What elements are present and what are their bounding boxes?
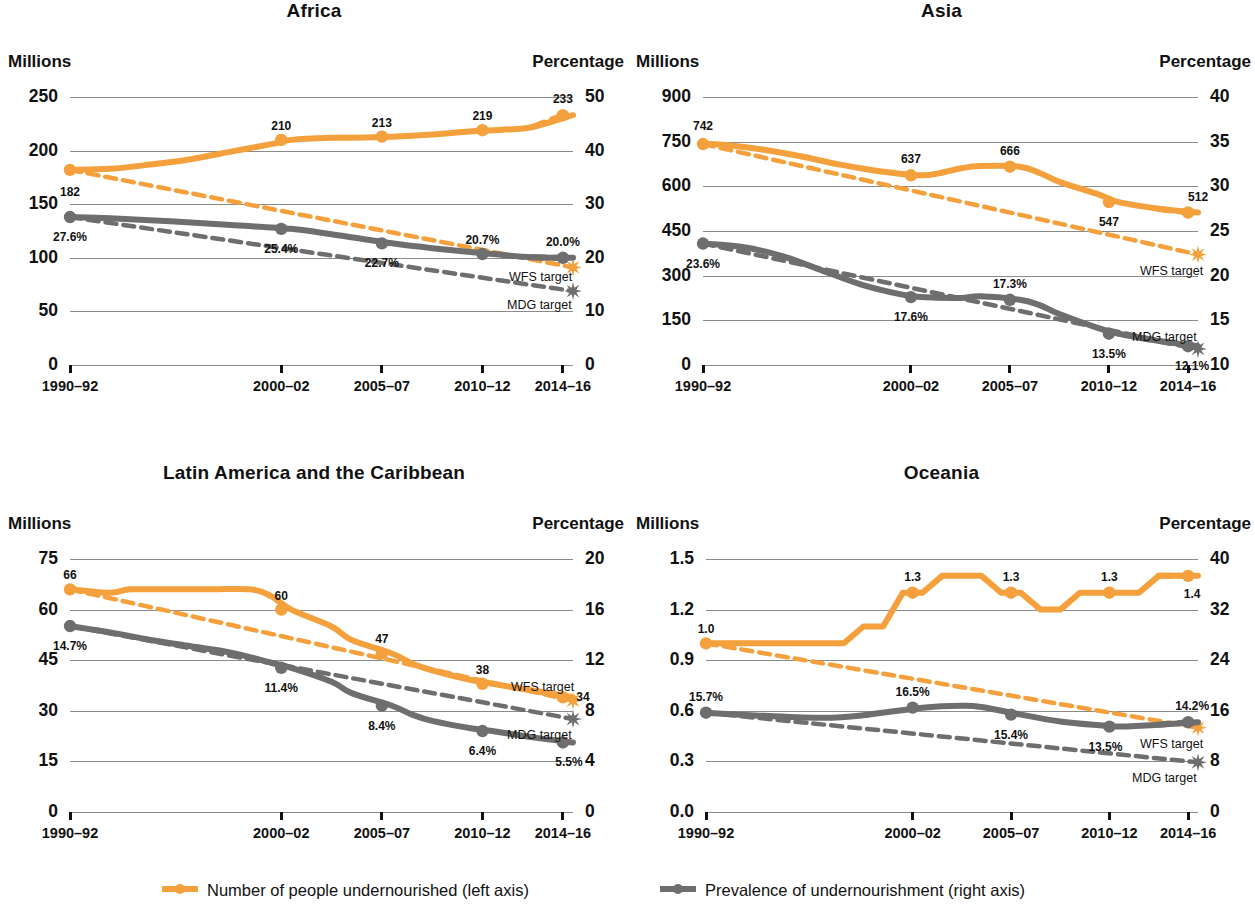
x-axis-tick-label: 1990–92 [42,378,98,394]
data-point-marker [376,130,388,142]
x-axis-tick-mark [1107,365,1110,373]
data-point-marker [275,603,287,615]
y-axis-tick-left: 0 [681,356,691,374]
mdg-target-label: MDG target [1132,772,1197,785]
y-axis-tick-right: 8 [1210,752,1220,770]
panel-title-africa: Africa [0,0,628,22]
data-point-label: 34 [576,691,589,703]
y-axis-tick-left: 30 [39,702,58,720]
data-point-label: 14.2% [1175,700,1209,712]
data-point-label: 13.5% [1092,348,1126,360]
wfs-target-label: WFS target [509,271,572,284]
data-point-marker [1005,708,1017,720]
left-axis-caption-africa: Millions [8,52,71,72]
x-axis-tick-mark [481,365,484,373]
data-point-label: 25.4% [264,243,298,255]
y-axis-tick-right: 8 [585,702,595,720]
y-axis-tick-left: 45 [39,651,58,669]
gridline [70,812,573,813]
y-axis-tick-right: 20 [585,249,604,267]
wfs-target-label: WFS target [1140,738,1203,751]
target-line [703,244,1198,349]
data-point-label: 210 [271,120,291,132]
data-point-label: 1.4 [1184,588,1201,600]
y-axis-tick-right: 16 [1210,702,1229,720]
y-axis-tick-left: 600 [662,177,691,195]
data-point-label: 60 [275,590,288,602]
target-line [70,626,573,719]
left-axis-caption-oceania: Millions [636,514,699,534]
x-axis-tick-mark [280,365,283,373]
y-axis-tick-right: 30 [585,195,604,213]
right-axis-caption-africa: Percentage [532,52,624,72]
data-point-marker [906,587,918,599]
data-point-label: 233 [553,93,573,105]
x-axis-tick-mark [561,365,564,373]
data-point-label: 1.3 [1003,571,1020,583]
series-layer [70,97,573,365]
y-axis-tick-right: 16 [585,601,604,619]
x-axis-tick-label: 2014–16 [535,825,591,841]
x-axis-tick-mark [1010,812,1013,820]
x-axis-tick-label: 2010–12 [454,825,510,841]
plot-area-asia: 0150300450600750900101520253035401990–92… [703,97,1198,365]
panel-asia: Asia Millions Percentage 015030045060075… [628,0,1255,420]
y-axis-tick-left: 0.9 [670,651,694,669]
panel-africa: Africa Millions Percentage 0501001502002… [0,0,628,420]
legend-item-prevalence-undernourishment: Prevalence of undernourishment (right ax… [660,881,1025,900]
y-axis-tick-right: 10 [1210,356,1229,374]
data-point-marker [1004,294,1016,306]
x-axis-tick-mark [702,365,705,373]
x-axis-tick-mark [1008,365,1011,373]
data-point-label: 637 [901,153,921,165]
data-point-label: 14.7% [53,640,87,652]
y-axis-tick-right: 24 [1210,651,1229,669]
panel-title-latin-america: Latin America and the Caribbean [0,462,628,484]
x-axis-tick-mark [481,812,484,820]
data-point-label: 213 [372,117,392,129]
x-axis-tick-label: 2014–16 [1160,825,1216,841]
y-axis-tick-right: 40 [585,142,604,160]
data-point-marker [376,237,388,249]
data-point-marker [905,169,917,181]
data-point-marker [1103,587,1115,599]
data-line [703,144,1198,212]
y-axis-tick-left: 50 [39,302,58,320]
data-point-marker [1103,196,1115,208]
panel-title-oceania: Oceania [628,462,1255,484]
series-layer [706,559,1198,812]
data-point-label: 182 [60,186,80,198]
right-axis-caption-latin-america: Percentage [532,514,624,534]
y-axis-tick-left: 200 [29,142,58,160]
y-axis-tick-left: 0.0 [670,803,694,821]
y-axis-tick-left: 15 [39,752,58,770]
series-layer [70,559,573,812]
data-point-marker [476,124,488,136]
y-axis-tick-left: 450 [662,222,691,240]
x-axis-tick-mark [280,812,283,820]
y-axis-tick-right: 4 [585,752,595,770]
y-axis-tick-right: 40 [1210,88,1229,106]
data-point-label: 27.6% [53,231,87,243]
data-point-label: 11.4% [265,682,298,694]
data-point-label: 1.3 [904,571,921,583]
y-axis-tick-right: 20 [1210,267,1229,285]
target-star-icon [1189,753,1207,771]
data-point-label: 547 [1099,216,1119,228]
data-point-marker [906,701,918,713]
y-axis-tick-right: 35 [1210,133,1229,151]
x-axis-tick-label: 2000–02 [253,378,309,394]
x-axis-tick-mark [1108,812,1111,820]
data-point-marker [1005,587,1017,599]
x-axis-tick-mark [380,365,383,373]
chart-grid: Africa Millions Percentage 0501001502002… [0,0,1255,919]
x-axis-tick-label: 2010–12 [1081,378,1137,394]
data-line [70,115,573,170]
y-axis-tick-left: 0.6 [670,702,694,720]
y-axis-tick-left: 250 [29,88,58,106]
y-axis-tick-left: 0.3 [670,752,694,770]
plot-area-latin-america: 015304560750481216201990–922000–022005–0… [70,559,573,812]
left-axis-caption-latin-america: Millions [8,514,71,534]
data-point-label: 20.0% [546,236,580,248]
y-axis-tick-right: 30 [1210,177,1229,195]
